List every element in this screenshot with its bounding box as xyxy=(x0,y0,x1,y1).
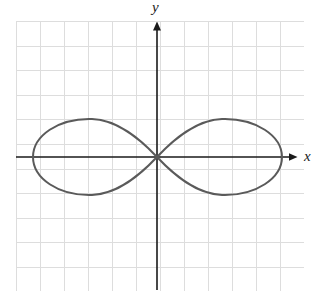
y-axis-label: y xyxy=(152,0,159,15)
x-axis-label: x xyxy=(304,149,311,164)
graph-figure: y x xyxy=(0,0,319,299)
plot-canvas xyxy=(0,0,319,299)
